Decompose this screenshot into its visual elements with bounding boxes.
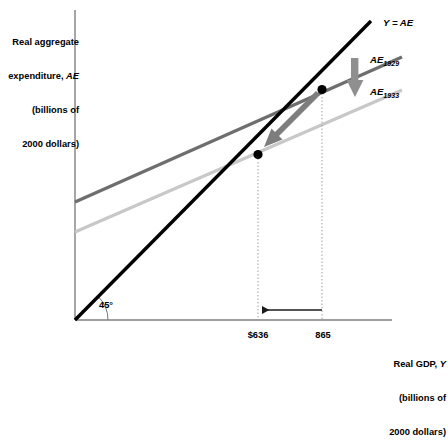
y-axis-title-line-1: Real aggregate — [0, 37, 79, 48]
y-axis-title-line-3: (billions of — [0, 105, 79, 116]
series-label-ae-1933-sub: 1933 — [383, 92, 399, 100]
x-axis-title-line-1: Real GDP, Y — [330, 359, 446, 370]
y-axis-title-line-4: 2000 dollars) — [0, 139, 79, 150]
y-axis-title-line-2-prefix: expenditure, — [8, 71, 66, 81]
ae-1933-line — [75, 90, 402, 232]
series-label-y-equals-ae: Y = AE — [383, 17, 413, 28]
x-axis-title: Real GDP, Y (billions of 2000 dollars) — [330, 336, 446, 441]
y-axis-title: Real aggregate expenditure, AE (billions… — [0, 14, 79, 174]
equilibrium-point-865 — [317, 85, 326, 94]
series-label-ae-1933-base: AE — [370, 86, 383, 97]
x-tick-label-636: $636 — [238, 330, 278, 340]
x-tick-label-865: 865 — [303, 330, 343, 340]
x-axis-title-line-1-italic: Y — [440, 359, 446, 369]
x-axis-title-line-1-prefix: Real GDP, — [393, 359, 439, 369]
x-axis-title-line-3: 2000 dollars) — [330, 427, 446, 438]
x-axis-title-line-2: (billions of — [330, 393, 446, 404]
forty-five-degree-line — [75, 21, 371, 320]
series-label-ae-1929-base: AE — [370, 54, 383, 65]
angle-label-45: 45° — [99, 300, 113, 310]
equilibrium-point-636 — [253, 150, 262, 159]
ae-shift-down-arrow-icon — [347, 58, 364, 97]
series-label-ae-1933: AE1933 — [370, 86, 399, 100]
y-axis-title-line-2: expenditure, AE — [0, 71, 79, 82]
series-label-ae-1929: AE1929 — [370, 54, 399, 68]
series-label-ae-1929-sub: 1929 — [383, 60, 399, 68]
y-axis-title-line-2-italic: AE — [66, 71, 79, 81]
